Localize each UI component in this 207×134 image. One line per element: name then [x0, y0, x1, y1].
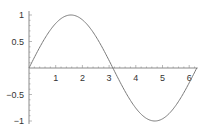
y-tick-label: 0.5: [11, 37, 24, 47]
axes: [29, 11, 198, 124]
sine-plot: 12345610.5−0.5−1: [0, 0, 207, 134]
x-tick-label: 6: [187, 73, 192, 83]
x-tick-label: 4: [133, 73, 138, 83]
x-tick-label: 2: [80, 73, 85, 83]
x-tick-label: 3: [107, 73, 112, 83]
y-tick-label: −1: [14, 116, 24, 126]
x-tick-label: 1: [53, 73, 58, 83]
y-tick-label: −0.5: [6, 90, 24, 100]
y-tick-label: 1: [19, 10, 24, 20]
x-tick-label: 5: [160, 73, 165, 83]
